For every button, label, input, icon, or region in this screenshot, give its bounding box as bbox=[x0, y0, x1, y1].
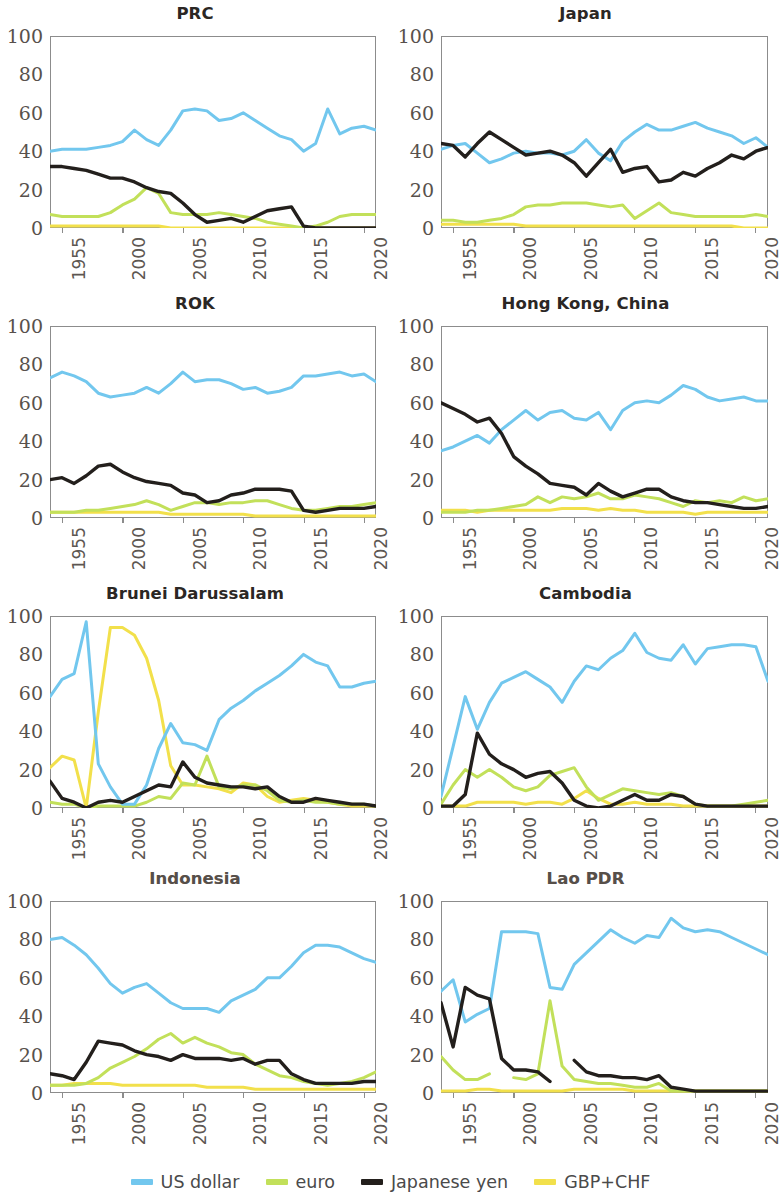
y-axis-tick-label: 40 bbox=[410, 430, 434, 452]
y-axis-tick-label: 0 bbox=[31, 797, 43, 819]
x-axis-tick-label: 2010 bbox=[641, 237, 661, 280]
panel-title: Hong Kong, China bbox=[390, 294, 781, 313]
y-axis-tick-label: 80 bbox=[19, 63, 43, 85]
x-axis-tickmark bbox=[634, 1093, 635, 1098]
plot-area: 100806040200195520002005201020152020 bbox=[50, 36, 376, 228]
legend-item: Japanese yen bbox=[361, 1174, 508, 1192]
x-axis-tick-label: 2020 bbox=[762, 1102, 781, 1145]
x-axis-tick-label: 2005 bbox=[581, 527, 601, 570]
x-axis-tick-label: 2005 bbox=[190, 527, 210, 570]
y-axis-tick-label: 40 bbox=[19, 430, 43, 452]
x-axis-tickmark bbox=[513, 1093, 514, 1098]
y-axis-tick-label: 40 bbox=[410, 140, 434, 162]
x-axis-tickmark bbox=[755, 808, 756, 813]
plot-area: 100806040200195520002005201020152020 bbox=[441, 36, 768, 228]
x-axis-tickmark bbox=[364, 808, 365, 813]
series-line-jpy bbox=[50, 167, 376, 228]
x-axis-tick-label: 2015 bbox=[311, 817, 331, 860]
legend-swatch-icon bbox=[361, 1179, 383, 1185]
x-axis-tick-label: 2015 bbox=[311, 1102, 331, 1145]
x-axis-tick-label: 2010 bbox=[641, 1102, 661, 1145]
y-axis-tick-label: 100 bbox=[7, 605, 43, 627]
x-axis-tick-label: 2010 bbox=[641, 527, 661, 570]
legend-item: GBP+CHF bbox=[534, 1174, 650, 1192]
x-axis-tickmark bbox=[62, 228, 63, 233]
y-axis-tick-label: 0 bbox=[422, 797, 434, 819]
panel-title: Lao PDR bbox=[390, 869, 781, 888]
series-canvas bbox=[50, 36, 376, 228]
x-axis-tickmark bbox=[695, 518, 696, 523]
figure-root: PRC100806040200195520002005201020152020J… bbox=[0, 0, 781, 1199]
x-axis-tick-label: 2000 bbox=[520, 527, 540, 570]
y-axis-tick-label: 80 bbox=[19, 928, 43, 950]
y-axis-tick-label: 60 bbox=[19, 682, 43, 704]
y-axis-tick-label: 80 bbox=[410, 353, 434, 375]
x-axis-tickmark bbox=[574, 518, 575, 523]
chart-panel: ROK100806040200195520002005201020152020 bbox=[0, 290, 390, 580]
panel-title: Japan bbox=[390, 4, 781, 23]
x-axis-tickmark bbox=[62, 808, 63, 813]
x-axis-tick-label: 2005 bbox=[581, 237, 601, 280]
x-axis-tick-label: 1955 bbox=[69, 237, 89, 280]
x-axis-tick-label: 2015 bbox=[702, 1102, 722, 1145]
y-axis-tick-label: 80 bbox=[410, 63, 434, 85]
x-axis-tickmark bbox=[304, 518, 305, 523]
x-axis-tick-label: 2000 bbox=[129, 237, 149, 280]
series-line-jpy bbox=[441, 132, 768, 182]
y-axis-tick-label: 40 bbox=[19, 140, 43, 162]
x-axis-tickmark bbox=[574, 228, 575, 233]
series-line-eur bbox=[441, 1057, 489, 1080]
y-axis-tick-label: 20 bbox=[19, 1044, 43, 1066]
series-line-jpy bbox=[441, 987, 550, 1081]
chart-panel: Japan10080604020019552000200520102015202… bbox=[390, 0, 781, 290]
y-axis-tick-label: 20 bbox=[410, 179, 434, 201]
x-axis-tick-label: 1955 bbox=[69, 817, 89, 860]
y-axis-tick-label: 40 bbox=[410, 1005, 434, 1027]
y-axis-tick-label: 80 bbox=[410, 643, 434, 665]
x-axis-tickmark bbox=[122, 808, 123, 813]
series-line-usd bbox=[50, 937, 376, 1012]
x-axis-tick-label: 2010 bbox=[641, 817, 661, 860]
x-axis-tickmark bbox=[453, 1093, 454, 1098]
x-axis-tickmark bbox=[122, 518, 123, 523]
x-axis-tick-label: 2010 bbox=[250, 817, 270, 860]
x-axis-tick-label: 2015 bbox=[311, 237, 331, 280]
x-axis-tickmark bbox=[453, 518, 454, 523]
legend-swatch-icon bbox=[266, 1179, 288, 1185]
panel-title: Cambodia bbox=[390, 584, 781, 603]
y-axis-tick-label: 100 bbox=[7, 25, 43, 47]
y-axis-tick-label: 100 bbox=[398, 890, 434, 912]
x-axis-tickmark bbox=[364, 518, 365, 523]
y-axis-tick-label: 60 bbox=[410, 102, 434, 124]
x-axis-tickmark bbox=[574, 1093, 575, 1098]
plot-area: 100806040200195520002005201020152020 bbox=[441, 616, 768, 808]
x-axis-tickmark bbox=[574, 808, 575, 813]
x-axis-tickmark bbox=[755, 1093, 756, 1098]
x-axis-tick-label: 2000 bbox=[520, 237, 540, 280]
x-axis-tickmark bbox=[183, 808, 184, 813]
x-axis-tick-label: 2015 bbox=[702, 237, 722, 280]
x-axis-tickmark bbox=[513, 518, 514, 523]
panel-title: ROK bbox=[0, 294, 390, 313]
x-axis-tick-label: 1955 bbox=[460, 527, 480, 570]
y-axis-tick-label: 40 bbox=[19, 720, 43, 742]
y-axis-tick-label: 20 bbox=[410, 1044, 434, 1066]
panel-title: Brunei Darussalam bbox=[0, 584, 390, 603]
series-line-usd bbox=[50, 372, 376, 397]
x-axis-tickmark bbox=[183, 228, 184, 233]
panel-grid: PRC100806040200195520002005201020152020J… bbox=[0, 0, 781, 1155]
y-axis-tick-label: 0 bbox=[31, 1082, 43, 1104]
x-axis-tickmark bbox=[453, 228, 454, 233]
legend-label: GBP+CHF bbox=[564, 1174, 650, 1192]
y-axis-tick-label: 0 bbox=[422, 507, 434, 529]
x-axis-tick-label: 2000 bbox=[129, 817, 149, 860]
series-canvas bbox=[50, 326, 376, 518]
x-axis-tick-label: 2010 bbox=[250, 237, 270, 280]
y-axis-tick-label: 60 bbox=[410, 392, 434, 414]
series-canvas bbox=[50, 616, 376, 808]
plot-area: 100806040200195520002005201020152020 bbox=[441, 901, 768, 1093]
x-axis-tick-label: 2020 bbox=[762, 237, 781, 280]
x-axis-tick-label: 1955 bbox=[69, 1102, 89, 1145]
y-axis-tick-label: 0 bbox=[422, 217, 434, 239]
y-axis-tick-label: 20 bbox=[410, 759, 434, 781]
